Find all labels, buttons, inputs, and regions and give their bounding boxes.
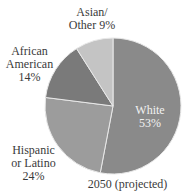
label-african-american: African American 14% xyxy=(2,45,57,84)
label-line: Other 9% xyxy=(62,19,122,32)
label-line: 53% xyxy=(125,117,175,130)
caption-text: 2050 (projected) xyxy=(70,178,185,191)
label-white: White 53% xyxy=(125,104,175,130)
chart-caption: 2050 (projected) xyxy=(70,178,185,191)
label-line: 14% xyxy=(2,71,57,84)
label-asian-other: Asian/ Other 9% xyxy=(62,6,122,32)
label-hispanic-latino: Hispanic or Latino 24% xyxy=(6,144,61,183)
label-line: 24% xyxy=(6,170,61,183)
